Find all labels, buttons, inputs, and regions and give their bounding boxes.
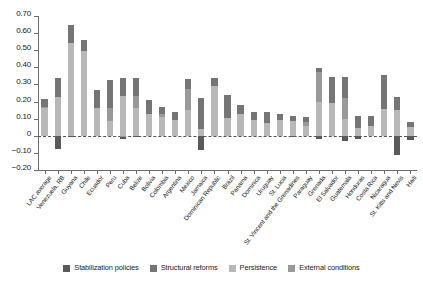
y-axis-tick-label: 0.60 bbox=[16, 27, 31, 35]
x-axis-category-labels: LAC averageVenezuela, RBGuyanaChileEcuad… bbox=[0, 174, 423, 254]
legend-label: External conditions bbox=[299, 264, 360, 272]
legend-item: External conditions bbox=[288, 264, 360, 272]
bar-segment bbox=[251, 112, 257, 120]
bar-segment bbox=[133, 78, 139, 97]
bar-segment bbox=[107, 108, 113, 122]
bar-segment bbox=[198, 136, 204, 151]
stacked-bar bbox=[107, 16, 113, 170]
stacked-bar bbox=[68, 16, 74, 170]
bar-segment bbox=[107, 80, 113, 107]
bar-segment bbox=[303, 117, 309, 122]
legend-swatch bbox=[288, 265, 295, 272]
bar-segment bbox=[211, 86, 217, 136]
legend-item: Structural reforms bbox=[150, 264, 218, 272]
stacked-bar bbox=[303, 16, 309, 170]
bar-segment bbox=[251, 120, 257, 136]
bar-group bbox=[38, 16, 417, 170]
bar-segment bbox=[237, 105, 243, 114]
bar-segment bbox=[381, 109, 387, 136]
bar-segment bbox=[198, 129, 204, 136]
bar-segment bbox=[316, 68, 322, 72]
bar-segment bbox=[342, 136, 348, 141]
bar-segment bbox=[81, 51, 87, 136]
stacked-bar bbox=[211, 16, 217, 170]
x-axis-category-label: Peru bbox=[104, 174, 118, 189]
y-axis-tick-label: 0 bbox=[27, 130, 31, 138]
y-axis-tick-label: −0.20 bbox=[12, 164, 31, 172]
bar-segment bbox=[94, 90, 100, 109]
legend-label: Structural reforms bbox=[161, 264, 218, 272]
stacked-bar bbox=[94, 16, 100, 170]
stacked-bar bbox=[159, 16, 165, 170]
bar-segment bbox=[120, 96, 126, 135]
y-axis-tick-label: 0.70 bbox=[16, 10, 31, 18]
bar-segment bbox=[342, 77, 348, 98]
bar-segment bbox=[81, 40, 87, 51]
bar-segment bbox=[41, 99, 47, 107]
stacked-bar bbox=[264, 16, 270, 170]
stacked-bar bbox=[251, 16, 257, 170]
bar-segment bbox=[120, 78, 126, 97]
y-axis-tick-label: 0.20 bbox=[16, 96, 31, 104]
stacked-bar bbox=[368, 16, 374, 170]
stacked-bar bbox=[316, 16, 322, 170]
bar-segment bbox=[211, 78, 217, 86]
bar-segment bbox=[159, 114, 165, 117]
bar-segment bbox=[277, 114, 283, 121]
bar-segment bbox=[394, 97, 400, 110]
bar-segment bbox=[159, 107, 165, 115]
bar-segment bbox=[264, 112, 270, 123]
chart-legend: Stabilization policiesStructural reforms… bbox=[0, 264, 423, 272]
bar-segment bbox=[290, 121, 296, 136]
bar-segment bbox=[172, 112, 178, 121]
bar-segment bbox=[185, 110, 191, 136]
stacked-bar bbox=[146, 16, 152, 170]
stacked-bar bbox=[329, 16, 335, 170]
bar-segment bbox=[172, 120, 178, 135]
stacked-bar bbox=[172, 16, 178, 170]
stacked-bar bbox=[290, 16, 296, 170]
bar-segment bbox=[394, 110, 400, 136]
bar-segment bbox=[41, 107, 47, 108]
stacked-bar bbox=[185, 16, 191, 170]
bar-segment bbox=[55, 78, 61, 97]
legend-label: Persistence bbox=[240, 264, 278, 272]
stacked-bar bbox=[198, 16, 204, 170]
bar-segment bbox=[224, 95, 230, 118]
bar-segment bbox=[355, 116, 361, 128]
bar-segment bbox=[407, 136, 413, 140]
bar-segment bbox=[120, 137, 126, 139]
bar-segment bbox=[68, 136, 74, 138]
bar-segment bbox=[94, 108, 100, 135]
bar-segment bbox=[41, 108, 47, 136]
bar-segment bbox=[290, 136, 296, 138]
stacked-bar bbox=[81, 16, 87, 170]
legend-label: Stabilization policies bbox=[74, 264, 138, 272]
bar-segment bbox=[68, 25, 74, 43]
bar-segment bbox=[264, 123, 270, 136]
bar-segment bbox=[146, 100, 152, 114]
bar-segment bbox=[381, 75, 387, 109]
bar-segment bbox=[342, 119, 348, 136]
bar-segment bbox=[407, 127, 413, 136]
stacked-bar bbox=[224, 16, 230, 170]
bar-segment bbox=[237, 114, 243, 135]
bar-segment bbox=[133, 136, 139, 138]
stacked-bar bbox=[41, 16, 47, 170]
stacked-bar bbox=[277, 16, 283, 170]
bar-segment bbox=[107, 121, 113, 136]
bar-segment bbox=[146, 114, 152, 136]
legend-swatch bbox=[63, 265, 70, 272]
stacked-bar bbox=[355, 16, 361, 170]
y-axis-tick-mark bbox=[34, 170, 38, 171]
bar-segment bbox=[185, 79, 191, 88]
stacked-bar bbox=[237, 16, 243, 170]
bar-segment bbox=[368, 116, 374, 126]
bar-segment bbox=[329, 103, 335, 136]
y-axis-tick-label: 0.30 bbox=[16, 78, 31, 86]
bar-segment bbox=[133, 96, 139, 108]
bar-segment bbox=[355, 136, 361, 139]
bar-segment bbox=[329, 77, 335, 104]
stacked-bar bbox=[342, 16, 348, 170]
bar-segment bbox=[342, 98, 348, 119]
